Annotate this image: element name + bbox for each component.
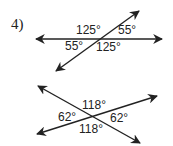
- angle-label: 62°: [58, 110, 76, 124]
- angle-label: 55°: [65, 39, 83, 53]
- angle-label: 62°: [110, 111, 128, 125]
- figure-bottom: 118°62°62°118°: [37, 86, 157, 143]
- angle-label: 118°: [79, 122, 103, 136]
- angle-diagram: 125°55°55°125° 118°62°62°118°: [0, 0, 173, 146]
- angle-label: 55°: [118, 23, 136, 37]
- angle-label: 118°: [82, 98, 106, 112]
- angle-label: 125°: [76, 23, 101, 37]
- figure-top: 125°55°55°125°: [36, 11, 162, 71]
- angle-label: 125°: [96, 40, 121, 54]
